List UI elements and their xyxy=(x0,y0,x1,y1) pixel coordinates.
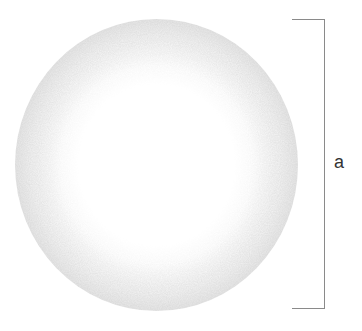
dimension-bracket xyxy=(292,19,325,309)
sphere-grain-texture xyxy=(15,19,298,311)
shaded-sphere xyxy=(15,19,298,311)
dimension-label: a xyxy=(334,152,344,172)
